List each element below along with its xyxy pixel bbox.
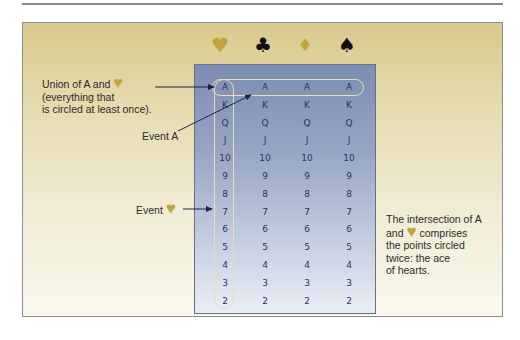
arrows xyxy=(0,0,520,340)
event-a-arrow xyxy=(178,95,251,131)
